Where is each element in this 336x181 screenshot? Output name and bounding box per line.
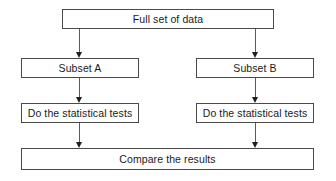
arrow-shaft xyxy=(255,29,256,53)
node-label: Compare the results xyxy=(119,153,215,164)
flowchart-diagram: Full set of data Subset A Subset B Do th… xyxy=(0,0,336,181)
node-compare-the-results: Compare the results xyxy=(21,148,314,170)
arrow-shaft xyxy=(255,78,256,98)
node-statistical-tests-right: Do the statistical tests xyxy=(196,103,314,123)
arrow-shaft xyxy=(79,78,80,98)
node-label: Do the statistical tests xyxy=(203,107,308,118)
arrow-subset-b-to-tests-right xyxy=(255,78,256,103)
arrow-full-set-to-subset-b xyxy=(255,29,256,58)
node-subset-a: Subset A xyxy=(21,58,139,78)
arrow-full-set-to-subset-a xyxy=(79,29,80,58)
node-full-set-of-data: Full set of data xyxy=(62,9,274,29)
node-label: Subset B xyxy=(233,62,276,73)
node-label: Subset A xyxy=(59,62,102,73)
arrow-tests-right-to-compare xyxy=(255,123,256,148)
arrow-subset-a-to-tests-left xyxy=(79,78,80,103)
node-label: Do the statistical tests xyxy=(28,107,133,118)
arrow-tests-left-to-compare xyxy=(79,123,80,148)
node-label: Full set of data xyxy=(133,13,203,24)
arrow-shaft xyxy=(79,123,80,143)
arrow-shaft xyxy=(255,123,256,143)
node-statistical-tests-left: Do the statistical tests xyxy=(21,103,139,123)
node-subset-b: Subset B xyxy=(196,58,314,78)
arrow-shaft xyxy=(79,29,80,53)
